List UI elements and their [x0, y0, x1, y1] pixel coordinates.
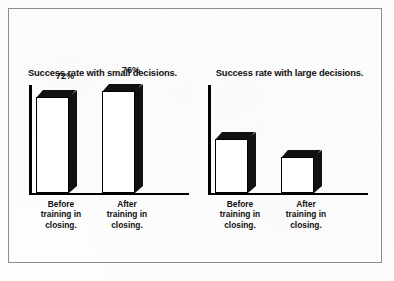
bar-front-face: [36, 97, 69, 193]
category-label-line: After: [85, 199, 169, 209]
chart-title-large-decisions: Success rate with large decisions.: [196, 67, 383, 78]
figure-frame: Success rate with small decisions. 72% 7…: [8, 8, 382, 263]
bar-after-large: [281, 157, 314, 193]
bar-value-label: 72%: [37, 71, 93, 81]
bar-side-face: [69, 90, 77, 193]
plot-area-large-decisions: 42% 33%: [196, 83, 383, 195]
y-axis-line: [29, 85, 32, 195]
category-label-line: training in: [85, 209, 169, 219]
bar-side-face: [248, 132, 256, 193]
chart-large-decisions: Success rate with large decisions. 42% 3…: [196, 9, 383, 264]
bar-front-face: [102, 91, 135, 193]
category-label-after: After training in closing.: [264, 199, 348, 230]
bar-before-small: [36, 97, 69, 193]
y-axis-line: [208, 85, 211, 195]
category-label-line: After: [264, 199, 348, 209]
scanned-page: Success rate with small decisions. 72% 7…: [0, 0, 394, 281]
category-label-line: closing.: [264, 220, 348, 230]
x-axis-line: [208, 193, 368, 196]
bar-side-face: [135, 84, 143, 193]
bar-front-face: [281, 157, 314, 193]
chart-small-decisions: Success rate with small decisions. 72% 7…: [9, 9, 196, 264]
bar-front-face: [215, 139, 248, 193]
plot-area-small-decisions: 72% 76%: [9, 83, 196, 195]
x-axis-line: [29, 193, 189, 196]
bar-before-large: [215, 139, 248, 193]
category-label-line: closing.: [85, 220, 169, 230]
bar-after-small: [102, 91, 135, 193]
bar-value-label: 76%: [103, 65, 159, 75]
category-label-line: training in: [264, 209, 348, 219]
bar-side-face: [314, 150, 322, 193]
category-label-after: After training in closing.: [85, 199, 169, 230]
